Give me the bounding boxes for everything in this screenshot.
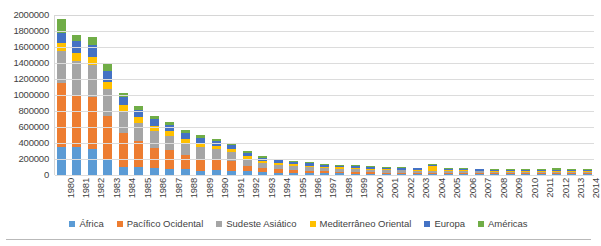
- legend-label: Américas: [488, 219, 528, 229]
- bar-segment: [212, 160, 221, 170]
- bar-1980[interactable]: [57, 19, 66, 175]
- bar-segment: [119, 167, 128, 175]
- bar-segment: [88, 37, 97, 45]
- x-axis-tick-2006: 2006: [458, 176, 467, 216]
- bar-1981[interactable]: [72, 35, 81, 175]
- gridline: [55, 63, 594, 64]
- bar-1988[interactable]: [181, 130, 190, 175]
- bar-segment: [88, 97, 97, 149]
- bar-segment: [103, 160, 112, 175]
- x-axis-tick-1983: 1983: [102, 176, 111, 216]
- legend-label: Sudeste Asiático: [226, 219, 296, 229]
- bar-1982[interactable]: [88, 37, 97, 175]
- x-axis-tick-2013: 2013: [566, 176, 575, 216]
- legend-swatch-icon: [216, 221, 222, 227]
- bar-1996[interactable]: [305, 162, 314, 175]
- bar-segment: [134, 141, 143, 167]
- legend-swatch-icon: [69, 221, 75, 227]
- bar-2001[interactable]: [382, 167, 391, 175]
- x-axis-tick-1986: 1986: [149, 176, 158, 216]
- x-axis-tick-1989: 1989: [195, 176, 204, 216]
- bar-1984[interactable]: [119, 93, 128, 175]
- bar-segment: [103, 116, 112, 160]
- bar-segment: [103, 82, 112, 89]
- legend-swatch-icon: [310, 221, 316, 227]
- bar-1994[interactable]: [274, 159, 283, 175]
- bar-1995[interactable]: [289, 161, 298, 175]
- bar-segment: [150, 168, 159, 175]
- gridline: [55, 47, 594, 48]
- x-axis-tick-2001: 2001: [381, 176, 390, 216]
- bar-1985[interactable]: [134, 106, 143, 175]
- x-axis-tick-2010: 2010: [520, 176, 529, 216]
- bar-segment: [134, 123, 143, 141]
- y-axis-tick-label: 200000: [18, 154, 49, 164]
- y-axis-tick-label: 1400000: [13, 58, 49, 68]
- chart-legend: ÁfricaPacífico OcidentalSudeste Asiático…: [0, 219, 597, 229]
- bar-1990[interactable]: [212, 139, 221, 175]
- legend-label: Europa: [434, 219, 465, 229]
- bar-segment: [196, 159, 205, 171]
- bar-1998[interactable]: [335, 165, 344, 175]
- bar-segment: [72, 53, 81, 61]
- bar-segment: [150, 148, 159, 168]
- x-axis-tick-1988: 1988: [180, 176, 189, 216]
- legend-item-Europa[interactable]: Europa: [424, 219, 465, 229]
- gridline: [55, 111, 594, 112]
- x-axis-tick-1990: 1990: [211, 176, 220, 216]
- x-axis-tick-2009: 2009: [505, 176, 514, 216]
- legend-label: Pacífico Ocidental: [127, 219, 204, 229]
- bar-segment: [57, 33, 66, 43]
- x-axis: 1980198119821983198419851986198719881989…: [54, 176, 593, 216]
- bar-1987[interactable]: [165, 122, 174, 175]
- x-axis-tick-1981: 1981: [71, 176, 80, 216]
- legend-item-Pacífico Ocidental[interactable]: Pacífico Ocidental: [117, 219, 204, 229]
- bar-2002[interactable]: [397, 167, 406, 175]
- x-axis-tick-1984: 1984: [118, 176, 127, 216]
- bar-1989[interactable]: [196, 135, 205, 175]
- bar-1999[interactable]: [351, 165, 360, 175]
- bar-1992[interactable]: [243, 151, 252, 175]
- y-axis-tick-label: 1600000: [13, 42, 49, 52]
- legend-item-África[interactable]: África: [69, 219, 103, 229]
- bar-2000[interactable]: [366, 166, 375, 175]
- gridline: [55, 143, 594, 144]
- bar-segment: [72, 147, 81, 175]
- legend-item-Sudeste Asiático[interactable]: Sudeste Asiático: [216, 219, 296, 229]
- y-axis-tick-label: 1800000: [13, 26, 49, 36]
- gridline: [55, 159, 594, 160]
- bar-segment: [150, 131, 159, 148]
- legend-swatch-icon: [424, 221, 430, 227]
- x-axis-tick-2011: 2011: [536, 176, 545, 216]
- bar-1997[interactable]: [320, 164, 329, 175]
- bar-segment: [181, 155, 190, 169]
- x-axis-tick-2003: 2003: [412, 176, 421, 216]
- bar-2005[interactable]: [444, 168, 453, 175]
- bar-segment: [134, 167, 143, 175]
- gridline: [55, 95, 594, 96]
- y-axis-tick-label: 1200000: [13, 74, 49, 84]
- legend-item-Américas[interactable]: Américas: [478, 219, 528, 229]
- x-axis-tick-1996: 1996: [304, 176, 313, 216]
- x-axis-tick-1992: 1992: [242, 176, 251, 216]
- bar-1986[interactable]: [150, 116, 159, 175]
- gridline: [55, 31, 594, 32]
- bar-2006[interactable]: [459, 168, 468, 175]
- legend-label: África: [79, 219, 103, 229]
- bar-segment: [181, 143, 190, 156]
- bar-segment: [119, 97, 128, 106]
- bar-2004[interactable]: [428, 164, 437, 175]
- x-axis-tick-label: 2014: [591, 178, 601, 198]
- bar-2003[interactable]: [413, 168, 422, 175]
- plot-wrapper: 2000000180000016000001400000120000010000…: [0, 0, 597, 196]
- x-axis-tick-2000: 2000: [365, 176, 374, 216]
- legend-label: Mediterrâneo Oriental: [320, 219, 412, 229]
- bar-2012[interactable]: [552, 168, 561, 175]
- y-axis-tick-label: 2000000: [13, 10, 49, 20]
- bar-segment: [150, 119, 159, 126]
- legend-item-Mediterrâneo Oriental[interactable]: Mediterrâneo Oriental: [310, 219, 412, 229]
- y-axis-tick-label: 600000: [18, 122, 49, 132]
- x-axis-tick-1995: 1995: [288, 176, 297, 216]
- x-axis-tick-1982: 1982: [87, 176, 96, 216]
